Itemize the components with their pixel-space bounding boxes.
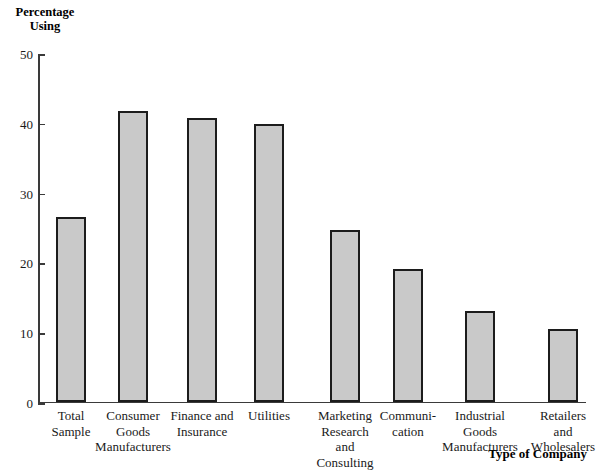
- plot-area: 01020304050: [38, 54, 586, 403]
- y-tick-mark: [38, 54, 45, 56]
- bar-3: [254, 124, 284, 401]
- bar-1: [118, 111, 148, 401]
- y-axis-line: [38, 54, 40, 403]
- bar-0: [56, 217, 86, 401]
- y-axis-title-line2: Using: [6, 20, 84, 34]
- bar-6: [465, 311, 495, 402]
- y-tick-label: 20: [20, 257, 33, 270]
- bar-7: [548, 329, 578, 402]
- x-category-label-line: Manufacturers: [73, 439, 193, 455]
- x-category-label-line: Retailers: [503, 408, 600, 424]
- bar-4: [330, 230, 360, 402]
- bar-5: [393, 269, 423, 402]
- y-axis-title-line1: Percentage: [6, 6, 84, 20]
- bar-2: [187, 118, 217, 401]
- x-category-label-line: Insurance: [142, 424, 262, 440]
- y-tick-label: 10: [20, 327, 33, 340]
- x-axis-title: Type of Company: [488, 446, 587, 462]
- y-tick-label: 30: [20, 187, 33, 200]
- x-category-label-line: and: [503, 424, 600, 440]
- y-tick-mark: [38, 194, 45, 196]
- y-axis-title: Percentage Using: [6, 6, 84, 33]
- y-tick-mark: [38, 124, 45, 126]
- x-axis-line: [38, 402, 586, 404]
- x-category-label-line: Consulting: [285, 455, 405, 470]
- y-tick-mark: [38, 263, 45, 265]
- y-tick-label: 50: [20, 48, 33, 61]
- x-category-label-line: and: [285, 439, 405, 455]
- y-tick-mark: [38, 333, 45, 335]
- y-tick-label: 40: [20, 117, 33, 130]
- y-tick-mark: [38, 403, 45, 405]
